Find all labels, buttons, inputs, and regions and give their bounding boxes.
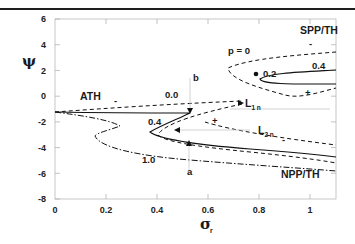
label-spp-th: SPP/TH	[300, 24, 338, 36]
label-02: 0.2	[263, 68, 276, 79]
x-tick-labels: 0 0.2 0.4 0.6 0.8 1	[52, 205, 312, 215]
svg-text:6: 6	[41, 14, 46, 24]
x-axis-label-subscript: r	[210, 227, 213, 234]
label-10: 1.0	[142, 154, 155, 165]
svg-text:0.2: 0.2	[100, 205, 113, 215]
arrow-l2n-icon	[174, 127, 180, 133]
curve-p0-dashed	[55, 101, 336, 163]
chart: 6 4 2 0 -2 -4 -6 -8 0 0.2 0.4 0.6 0.8 1 …	[0, 0, 355, 244]
svg-text:2: 2	[41, 66, 46, 76]
svg-text:0.4: 0.4	[151, 205, 164, 215]
arrow-l1n-icon	[238, 100, 244, 106]
svg-text:0: 0	[41, 91, 46, 101]
svg-text:-4: -4	[38, 143, 46, 153]
label-04-mid: 0.4	[148, 116, 162, 127]
label-00: 0.0	[165, 89, 178, 100]
label-b: b	[193, 72, 199, 83]
label-p0: p = 0	[228, 45, 250, 56]
y-axis-label: ψ	[22, 52, 36, 70]
arrowheads	[174, 100, 244, 146]
label-04-top: 0.4	[312, 60, 326, 71]
sign-plus-1: +	[305, 87, 311, 98]
y-tick-labels: 6 4 2 0 -2 -4 -6 -8	[38, 14, 46, 204]
sign-minus-1: -	[309, 38, 312, 49]
label-ath: ATH	[80, 90, 101, 102]
top-rule	[0, 8, 355, 10]
label-npp-th: NPP/TH	[281, 168, 320, 180]
sign-plus-2: +	[212, 115, 218, 126]
svg-text:-2: -2	[38, 117, 46, 127]
curve-p10-dashdot	[55, 112, 336, 171]
sign-minus-2: -	[114, 95, 117, 106]
marker-dot	[254, 72, 259, 77]
label-l2n: L2 n	[258, 124, 274, 138]
curves	[55, 52, 336, 171]
svg-text:0: 0	[52, 205, 57, 215]
label-l1n: L1 n	[245, 97, 261, 111]
sign-minus-3: -	[282, 134, 285, 145]
label-a: a	[187, 166, 193, 177]
svg-text:-6: -6	[38, 169, 46, 179]
svg-text:-8: -8	[38, 194, 46, 204]
svg-text:0.8: 0.8	[253, 205, 266, 215]
svg-text:4: 4	[41, 40, 46, 50]
svg-text:1: 1	[307, 205, 312, 215]
svg-text:0.6: 0.6	[202, 205, 215, 215]
